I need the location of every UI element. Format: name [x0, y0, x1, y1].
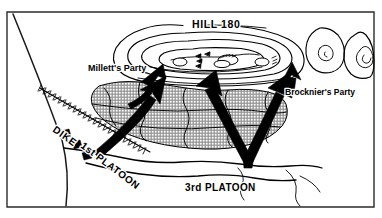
hill-180-assault-map: HILL 180 HILL 180 Millett's Party Millet…	[0, 0, 382, 218]
millett-party-label: Millett's Party	[88, 63, 146, 73]
hill-180-label: HILL 180	[192, 18, 240, 30]
third-platoon-label: 3rd PLATOON	[185, 182, 256, 193]
brocknier-party-label: Brocknier's Party	[285, 87, 355, 97]
third-platoon-arrow-junction	[243, 156, 254, 168]
map-canvas: HILL 180 HILL 180 Millett's Party Millet…	[0, 0, 382, 218]
